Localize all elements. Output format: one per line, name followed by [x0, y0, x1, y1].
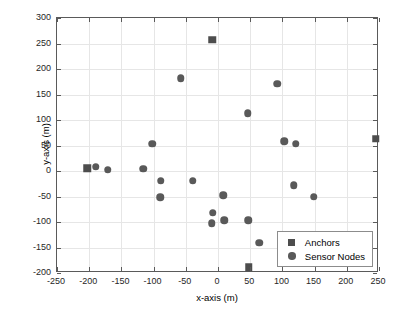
sensor-node-marker — [92, 163, 100, 171]
plot-area: Anchors Sensor Nodes — [56, 17, 378, 272]
y-tick-label: -50 — [20, 191, 51, 201]
y-tick-label: -100 — [20, 216, 51, 226]
y-tick — [57, 146, 61, 147]
x-tick — [89, 18, 90, 22]
sensor-node-marker — [157, 177, 165, 185]
y-tick-label: 150 — [20, 89, 51, 99]
y-tick — [373, 222, 377, 223]
gridline-horizontal — [57, 222, 377, 223]
x-tick-label: -250 — [47, 276, 65, 286]
sensor-node-marker — [281, 138, 289, 146]
y-tick — [57, 120, 61, 121]
x-tick — [282, 18, 283, 22]
x-tick-label: 0 — [214, 276, 219, 286]
x-tick — [89, 267, 90, 271]
gridline-horizontal — [57, 44, 377, 45]
gridline-vertical — [89, 18, 90, 271]
sensor-node-marker — [156, 193, 164, 201]
y-tick-label: 300 — [20, 12, 51, 22]
anchor-marker — [245, 264, 253, 272]
y-tick — [373, 44, 377, 45]
gridline-horizontal — [57, 197, 377, 198]
gridline-horizontal — [57, 146, 377, 147]
sensor-node-marker — [177, 74, 185, 82]
x-tick — [379, 18, 380, 22]
y-tick — [373, 69, 377, 70]
x-tick — [315, 18, 316, 22]
gridline-horizontal — [57, 95, 377, 96]
y-tick — [57, 18, 61, 19]
sensor-node-marker — [219, 192, 227, 200]
legend-label-sensor-nodes: Sensor Nodes — [305, 251, 365, 262]
sensor-node-marker — [189, 177, 197, 185]
sensor-node-marker — [149, 140, 157, 148]
y-tick — [373, 273, 377, 274]
x-tick — [218, 18, 219, 22]
sensor-node-marker — [292, 140, 300, 148]
gridline-vertical — [186, 18, 187, 271]
y-tick — [57, 44, 61, 45]
gridline-vertical — [218, 18, 219, 271]
sensor-node-marker — [255, 239, 263, 247]
x-tick — [379, 267, 380, 271]
sensor-node-marker — [208, 219, 216, 227]
y-axis-title: y-axis (m) — [40, 104, 51, 184]
x-tick — [347, 267, 348, 271]
x-tick — [315, 267, 316, 271]
legend-item-anchors[interactable]: Anchors — [283, 235, 365, 249]
sensor-nodes-circle-icon — [283, 252, 301, 260]
x-tick-label: 200 — [338, 276, 353, 286]
sensor-node-marker — [209, 209, 217, 217]
gridline-vertical — [250, 18, 251, 271]
sensor-node-marker — [104, 166, 112, 174]
y-tick — [373, 95, 377, 96]
x-axis-title: x-axis (m) — [56, 292, 378, 303]
anchors-square-icon — [283, 239, 301, 246]
y-tick — [57, 197, 61, 198]
x-tick — [282, 267, 283, 271]
y-tick — [373, 197, 377, 198]
anchor-marker — [84, 165, 92, 173]
y-tick — [373, 248, 377, 249]
x-tick-label: 100 — [274, 276, 289, 286]
x-tick — [347, 18, 348, 22]
legend-item-sensor-nodes[interactable]: Sensor Nodes — [283, 249, 365, 263]
anchor-marker — [372, 135, 380, 143]
gridline-horizontal — [57, 69, 377, 70]
sensor-node-marker — [310, 193, 318, 201]
x-tick-label: -100 — [144, 276, 162, 286]
x-tick-label: -50 — [178, 276, 191, 286]
x-tick-label: 150 — [306, 276, 321, 286]
x-tick-label: 50 — [244, 276, 254, 286]
x-tick — [154, 18, 155, 22]
y-tick — [57, 248, 61, 249]
sensor-node-marker — [244, 110, 252, 118]
sensor-node-marker — [290, 182, 298, 190]
y-tick-label: -200 — [20, 267, 51, 277]
x-tick — [121, 267, 122, 271]
y-tick — [57, 171, 61, 172]
y-tick — [373, 146, 377, 147]
x-tick — [57, 267, 58, 271]
x-tick-label: -150 — [111, 276, 129, 286]
x-tick — [121, 18, 122, 22]
y-tick — [373, 120, 377, 121]
y-tick — [373, 18, 377, 19]
x-tick — [250, 267, 251, 271]
y-tick — [57, 95, 61, 96]
x-tick — [250, 18, 251, 22]
y-tick — [57, 273, 61, 274]
anchor-marker — [208, 36, 216, 44]
y-tick-label: -150 — [20, 242, 51, 252]
x-tick — [154, 267, 155, 271]
y-tick-label: 200 — [20, 63, 51, 73]
sensor-node-marker — [273, 80, 281, 88]
x-tick-label: 250 — [370, 276, 385, 286]
x-tick-label: -200 — [79, 276, 97, 286]
legend[interactable]: Anchors Sensor Nodes — [277, 231, 373, 267]
legend-label-anchors: Anchors — [305, 237, 340, 248]
x-tick — [186, 18, 187, 22]
y-tick — [57, 222, 61, 223]
sensor-node-marker — [221, 217, 229, 225]
x-tick — [218, 267, 219, 271]
